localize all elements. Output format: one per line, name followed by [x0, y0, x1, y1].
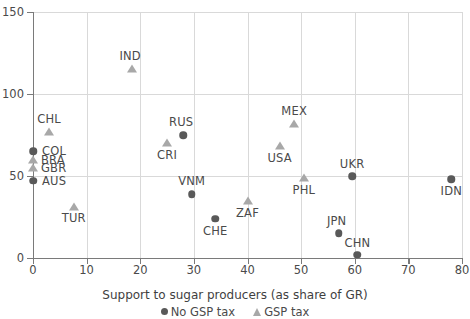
triangle-marker-icon [243, 196, 253, 204]
data-point-label: IDN [441, 184, 462, 198]
circle-marker-icon [188, 190, 196, 198]
x-tick-label: 60 [347, 263, 362, 277]
triangle-marker-icon [299, 173, 309, 181]
circle-marker-icon [161, 308, 168, 315]
circle-marker-icon [348, 172, 356, 180]
x-axis-title: Support to sugar producers (as share of … [0, 288, 470, 302]
gridline-vertical [301, 12, 302, 258]
x-tick-label: 80 [455, 263, 470, 277]
gridline-horizontal [33, 12, 462, 13]
circle-marker-icon [354, 251, 362, 259]
triangle-marker-icon [253, 308, 261, 316]
legend-item[interactable]: GSP tax [253, 304, 309, 319]
data-point-label: TUR [62, 211, 86, 225]
x-tick-label: 40 [240, 263, 255, 277]
circle-marker-icon [29, 177, 37, 185]
gridline-vertical [355, 12, 356, 258]
circle-marker-icon [179, 131, 187, 139]
gridline-vertical [87, 12, 88, 258]
gridline-vertical [194, 12, 195, 258]
data-point-label: PHL [293, 183, 316, 197]
triangle-marker-icon [28, 163, 38, 171]
x-tick-label: 10 [79, 263, 94, 277]
data-point-label: JPN [327, 214, 347, 228]
gridline-vertical [408, 12, 409, 258]
y-tick-mark [27, 94, 33, 95]
legend-label: GSP tax [264, 305, 309, 319]
y-axis-line [33, 12, 34, 258]
gridline-horizontal [33, 94, 462, 95]
data-point-label: USA [267, 151, 291, 165]
triangle-marker-icon [127, 65, 137, 73]
x-tick-label: 20 [133, 263, 148, 277]
plot-area [33, 12, 462, 258]
data-point-label: CRI [157, 148, 177, 162]
y-tick-label: 150 [0, 5, 24, 19]
data-point-label: CHN [344, 236, 370, 250]
circle-marker-icon [29, 148, 37, 156]
y-tick-label: 100 [0, 87, 24, 101]
data-point-label: ZAF [236, 206, 259, 220]
triangle-marker-icon [275, 142, 285, 150]
x-tick-label: 70 [401, 263, 416, 277]
x-tick-label: 30 [187, 263, 202, 277]
chart-legend: No GSP taxGSP tax [0, 304, 470, 319]
triangle-marker-icon [28, 155, 38, 163]
triangle-marker-icon [289, 119, 299, 127]
circle-marker-icon [448, 176, 456, 184]
data-point-label: IND [119, 49, 140, 63]
x-tick-label: 0 [29, 263, 36, 277]
triangle-marker-icon [69, 203, 79, 211]
circle-marker-icon [335, 230, 343, 238]
triangle-marker-icon [44, 127, 54, 135]
y-tick-mark [27, 12, 33, 13]
gridline-vertical [462, 12, 463, 258]
triangle-marker-icon [162, 139, 172, 147]
data-point-label: VNM [178, 174, 205, 188]
data-point-label: RUS [169, 115, 193, 129]
gridline-horizontal [33, 176, 462, 177]
data-point-label: MEX [281, 104, 307, 118]
data-point-label: GBR [41, 161, 66, 175]
data-point-label: AUS [42, 174, 66, 188]
legend-label: No GSP tax [171, 305, 235, 319]
y-tick-label: 50 [0, 169, 24, 183]
data-point-label: CHL [37, 112, 61, 126]
data-point-label: CHE [203, 224, 228, 238]
circle-marker-icon [212, 215, 220, 223]
gridline-vertical [248, 12, 249, 258]
legend-item[interactable]: No GSP tax [161, 304, 235, 319]
y-tick-label: 0 [0, 251, 24, 265]
data-point-label: UKR [340, 157, 365, 171]
x-tick-label: 50 [294, 263, 309, 277]
